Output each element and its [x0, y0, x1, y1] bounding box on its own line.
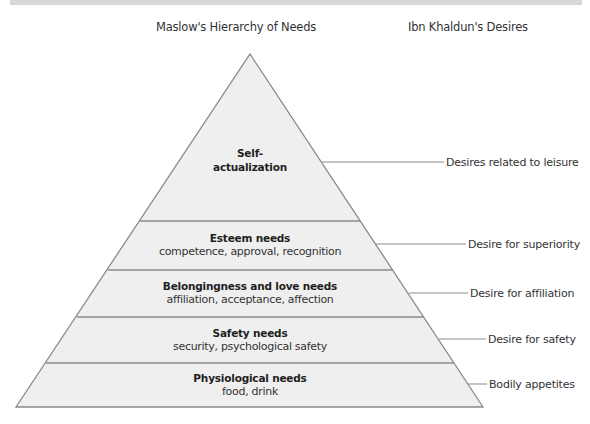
desire-superiority: Desire for superiority: [468, 238, 580, 251]
tier-subtitle: affiliation, acceptance, affection: [163, 293, 337, 307]
tier-title: Esteem needs: [159, 231, 341, 245]
tier-subtitle: competence, approval, recognition: [159, 245, 341, 259]
tier-title: actualization: [213, 160, 287, 174]
tier-belongingness: Belongingness and love needs affiliation…: [163, 279, 337, 307]
tier-subtitle: food, drink: [193, 385, 306, 399]
tier-self-actualization: Self- actualization: [213, 146, 287, 174]
desire-safety: Desire for safety: [488, 333, 576, 346]
desire-bodily: Bodily appetites: [489, 378, 575, 391]
tier-title: Self-: [213, 146, 287, 160]
desire-leisure: Desires related to leisure: [446, 156, 579, 169]
tier-safety: Safety needs security, psychological saf…: [173, 326, 327, 354]
tier-title: Safety needs: [173, 326, 327, 340]
tier-physiological: Physiological needs food, drink: [193, 371, 306, 399]
desire-affiliation: Desire for affiliation: [470, 287, 574, 300]
tier-title: Physiological needs: [193, 371, 306, 385]
tier-title: Belongingness and love needs: [163, 279, 337, 293]
tier-subtitle: security, psychological safety: [173, 340, 327, 354]
pyramid-diagram: [0, 0, 590, 424]
tier-esteem: Esteem needs competence, approval, recog…: [159, 231, 341, 259]
